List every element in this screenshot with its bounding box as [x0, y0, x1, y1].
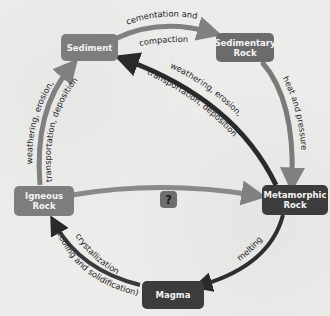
node-sedimentary-rock: Sedimentary Rock	[216, 33, 274, 62]
label-cementation: cementation and	[125, 9, 199, 27]
node-metamorphic-rock: Metamorphic Rock	[262, 185, 328, 215]
label-compaction: compaction	[138, 34, 188, 48]
label-melting: melting	[235, 234, 264, 263]
rock-cycle-arrows: cementation and compaction heat and pres…	[0, 0, 330, 316]
node-magma: Magma	[142, 281, 204, 309]
node-igneous-rock: Igneous Rock	[14, 186, 74, 216]
unknown-process-badge: ?	[160, 191, 177, 208]
node-sediment: Sediment	[61, 34, 118, 61]
